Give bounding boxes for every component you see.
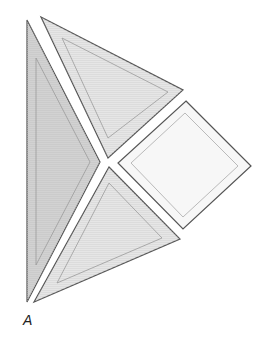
tangram-diagram bbox=[0, 0, 271, 350]
figure-label: A bbox=[23, 312, 32, 328]
